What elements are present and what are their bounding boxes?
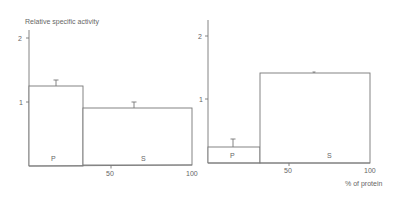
x-tick-label-100: 100: [364, 167, 376, 174]
y-tick-label-1: 1: [19, 99, 23, 106]
y-axis-label: Relative specific activity: [25, 18, 99, 26]
bar-p: [29, 86, 83, 166]
y-tick-label-2: 2: [198, 33, 202, 40]
bar-s: [83, 108, 192, 165]
left-chart: Relative specific activity 2 1 P S 50 10…: [18, 18, 198, 177]
x-axis-label: % of protein: [345, 180, 382, 188]
x-tick-label-100: 100: [186, 170, 198, 177]
bar-label-p: P: [51, 155, 56, 162]
right-chart: 2 1 P S 50 100 % of protein: [198, 20, 382, 188]
x-tick-label-50: 50: [284, 167, 292, 174]
figure: Relative specific activity 2 1 P S 50 10…: [0, 0, 398, 199]
bar-label-p: P: [230, 152, 235, 159]
y-tick-label-1: 1: [199, 96, 203, 103]
bar-s: [260, 73, 370, 163]
bar-label-s: S: [141, 155, 146, 162]
bar-label-s: S: [327, 152, 332, 159]
x-tick-label-50: 50: [106, 170, 114, 177]
y-tick-label-2: 2: [18, 35, 22, 42]
